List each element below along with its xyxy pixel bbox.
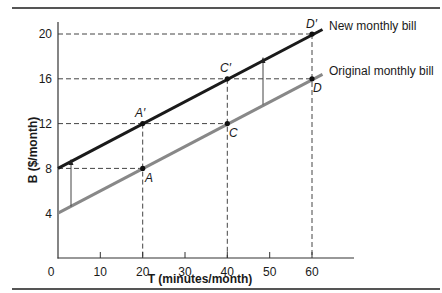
original-bill-line (58, 74, 323, 213)
y-tick-labels: 4 8 12 16 20 (39, 27, 53, 220)
x-tick-60: 60 (305, 265, 319, 279)
y-axis-title: B ($/month) (26, 117, 40, 184)
label-D-prime: D′ (306, 17, 318, 31)
x-tick-0: 0 (48, 265, 55, 279)
y-tick-12: 12 (39, 117, 53, 131)
label-A-prime: A′ (134, 106, 146, 120)
y-tick-8: 8 (45, 162, 52, 176)
chart: 0 10 20 30 40 50 60 4 8 12 16 20 T (minu… (0, 0, 442, 293)
series-label-new: New monthly bill (329, 19, 416, 33)
label-A: A (144, 171, 153, 185)
y-tick-20: 20 (39, 27, 53, 41)
y-tick-4: 4 (45, 207, 52, 221)
series-label-original: Original monthly bill (329, 64, 434, 78)
y-tick-16: 16 (39, 72, 53, 86)
x-tick-50: 50 (263, 265, 277, 279)
x-tick-10: 10 (94, 265, 108, 279)
label-C-prime: C′ (220, 61, 232, 75)
point-D-prime (309, 31, 314, 36)
new-bill-line (58, 30, 323, 169)
point-C-prime (225, 76, 230, 81)
x-ticks (100, 252, 312, 258)
data-points (140, 31, 315, 171)
x-axis-title: T (minutes/month) (148, 272, 253, 286)
label-D: D (313, 81, 322, 95)
point-A-prime (140, 121, 145, 126)
label-C: C (229, 126, 238, 140)
